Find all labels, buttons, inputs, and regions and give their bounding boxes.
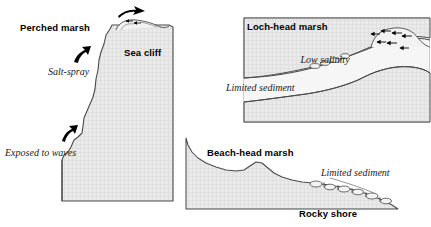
saltmarsh-settings-diagram: Perched marsh Sea cliff Salt-spray Expos… [0,0,431,227]
limited-sediment-label-beach-head: Limited sediment [321,168,390,179]
diagram-canvas [0,0,431,227]
salt-spray-label: Salt-spray [48,67,89,78]
perched-marsh-panel [62,6,173,201]
loch-head-marsh-title: Loch-head marsh [247,22,328,32]
limited-sediment-label-loch-head: Limited sediment [226,83,295,94]
spray-arrow-over-cliff-icon [118,6,145,18]
loch-head-marsh-panel [244,18,431,123]
low-salinity-label: Low salinity [299,55,351,66]
sea-cliff-label: Sea cliff [124,48,161,58]
rocky-shore-label: Rocky shore [299,209,357,219]
beach-head-marsh-title: Beach-head marsh [207,148,294,158]
exposed-to-waves-label: Exposed to waves [5,148,69,159]
perched-marsh-title: Perched marsh [20,23,90,33]
spray-arrow-up-right-icon [74,46,91,63]
